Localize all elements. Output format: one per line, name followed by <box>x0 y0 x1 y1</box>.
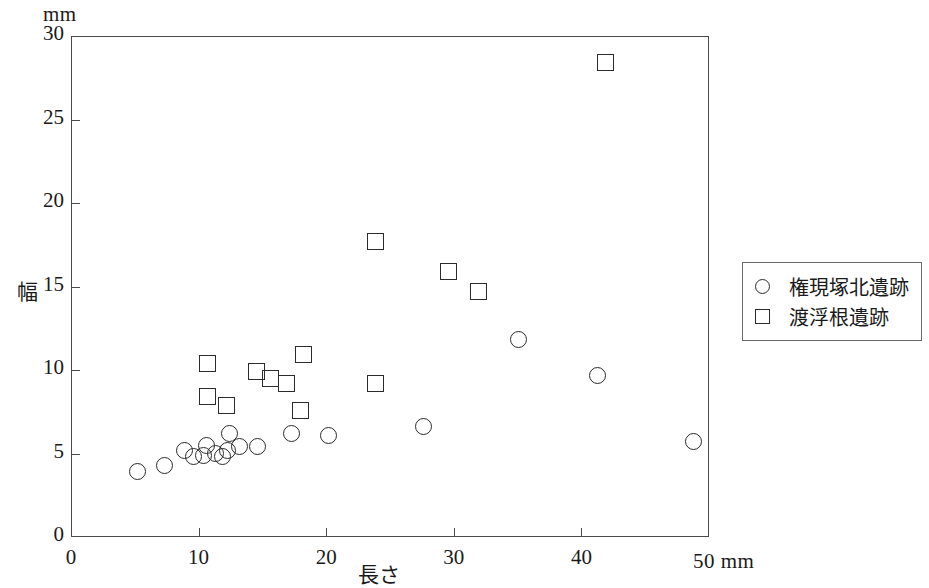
y-tick-label: 30 <box>20 21 64 46</box>
data-point-circle <box>156 457 173 474</box>
y-tick-label: 10 <box>20 355 64 380</box>
legend-item-label: 権現塚北遺跡 <box>789 272 909 301</box>
data-point-square <box>199 355 216 372</box>
x-tick-label: 0 <box>41 545 101 570</box>
x-axis-unit-label: 50 mm <box>693 549 754 574</box>
data-point-square <box>440 263 457 280</box>
x-tick-mark <box>199 528 200 537</box>
x-tick-label: 40 <box>551 545 611 570</box>
x-tick-label: 30 <box>424 545 484 570</box>
data-point-circle <box>589 367 606 384</box>
legend-item-label: 渡浮根遺跡 <box>789 302 889 331</box>
y-tick-label: 0 <box>20 522 64 547</box>
x-axis-title: 長さ <box>358 558 400 588</box>
legend-item-0: 権現塚北遺跡 <box>755 271 911 301</box>
data-point-square <box>262 370 279 387</box>
legend-square-icon <box>755 309 789 324</box>
data-point-square <box>367 233 384 250</box>
y-tick-mark <box>71 287 80 288</box>
y-tick-mark <box>71 454 80 455</box>
y-tick-mark <box>71 370 80 371</box>
data-point-circle <box>320 427 337 444</box>
data-point-square <box>367 375 384 392</box>
data-point-circle <box>415 418 432 435</box>
y-tick-label: 25 <box>20 105 64 130</box>
legend-circle-icon <box>755 279 789 294</box>
data-point-circle <box>249 438 266 455</box>
data-point-square <box>597 54 614 71</box>
data-point-square <box>295 346 312 363</box>
scatter-chart: mm 幅 長さ 50 mm 051015202530 010203040 権現塚… <box>0 0 929 588</box>
data-point-square <box>278 375 295 392</box>
x-tick-label: 20 <box>296 545 356 570</box>
data-point-square <box>199 388 216 405</box>
x-tick-label: 10 <box>169 545 229 570</box>
data-point-square <box>218 397 235 414</box>
data-point-square <box>292 402 309 419</box>
y-tick-label: 5 <box>20 439 64 464</box>
data-point-square <box>470 283 487 300</box>
y-tick-label: 20 <box>20 188 64 213</box>
x-tick-mark <box>581 528 582 537</box>
legend-item-1: 渡浮根遺跡 <box>755 301 911 331</box>
chart-legend: 権現塚北遺跡 渡浮根遺跡 <box>742 262 922 341</box>
y-tick-mark <box>71 120 80 121</box>
y-tick-mark <box>71 203 80 204</box>
y-tick-label: 15 <box>20 272 64 297</box>
x-tick-mark <box>326 528 327 537</box>
x-tick-mark <box>454 528 455 537</box>
